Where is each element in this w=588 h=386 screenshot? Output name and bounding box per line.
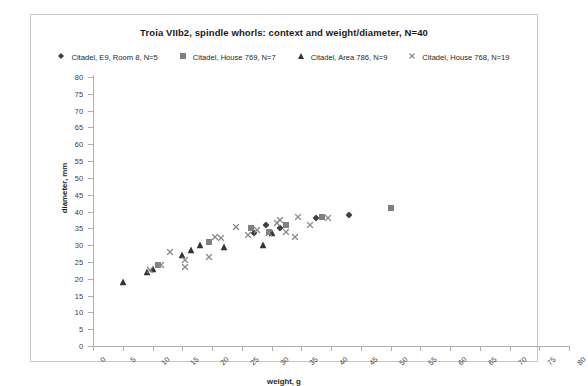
data-point-s2-0	[119, 279, 126, 286]
x-tick	[331, 346, 332, 351]
data-point-s1-4	[283, 222, 289, 228]
triangle-marker-icon	[298, 53, 307, 62]
data-point-s2-5	[197, 242, 204, 249]
legend-label: Citadel, House 769, N=7	[193, 53, 276, 62]
x-tick-label: 50	[397, 355, 409, 367]
data-point-s3-2	[167, 248, 174, 255]
chart-legend: Citadel, E9, Room 8, N=5Citadel, House 7…	[31, 53, 537, 62]
x-tick-label: 0	[98, 355, 107, 364]
x-tick-label: 40	[337, 355, 349, 367]
x-tick-label: 20	[218, 355, 230, 367]
x-tick	[569, 346, 570, 351]
x-tick-label: 70	[516, 355, 528, 367]
y-tick-label: 45	[75, 190, 83, 199]
x-tick	[301, 346, 302, 351]
legend-item-2[interactable]: Citadel, Area 786, N=9	[298, 53, 388, 62]
chart-title: Troia VIIb2, spindle whorls: context and…	[31, 27, 537, 38]
legend-item-1[interactable]: Citadel, House 769, N=7	[180, 53, 276, 62]
data-point-s3-14	[283, 228, 290, 235]
x-tick	[420, 346, 421, 351]
legend-item-0[interactable]: Citadel, E9, Room 8, N=5	[58, 53, 157, 62]
legend-label: Citadel, House 768, N=19	[422, 53, 509, 62]
x-tick-label: 15	[189, 355, 201, 367]
y-tick-label: 50	[75, 173, 83, 182]
data-point-s0-4	[345, 211, 352, 218]
x-tick	[480, 346, 481, 351]
chart-frame: Troia VIIb2, spindle whorls: context and…	[30, 14, 538, 362]
y-tick-label: 55	[75, 157, 83, 166]
x-tick	[391, 346, 392, 351]
x-tick	[93, 346, 94, 351]
data-point-s3-8	[232, 223, 239, 230]
x-tick-label: 60	[456, 355, 468, 367]
y-tick-label: 20	[75, 274, 83, 283]
data-point-s1-6	[388, 205, 394, 211]
data-point-s3-15	[292, 233, 299, 240]
x-tick-label: 30	[278, 355, 290, 367]
x-tick-label: 80	[575, 355, 587, 367]
diamond-marker-icon	[58, 53, 67, 62]
data-point-s2-7	[259, 242, 266, 249]
data-point-s0-1	[262, 221, 269, 228]
data-point-s3-18	[325, 215, 332, 222]
data-point-s2-6	[220, 243, 227, 250]
y-tick-label: 35	[75, 224, 83, 233]
x-tick	[212, 346, 213, 351]
data-point-s2-4	[188, 247, 195, 254]
x-tick	[182, 346, 183, 351]
y-tick-label: 30	[75, 241, 83, 250]
data-point-s3-13	[277, 216, 284, 223]
x-tick-label: 55	[427, 355, 439, 367]
data-point-s3-9	[244, 232, 251, 239]
data-point-s3-5	[206, 253, 213, 260]
x-tick-label: 45	[367, 355, 379, 367]
legend-item-3[interactable]: Citadel, House 768, N=19	[409, 53, 509, 62]
legend-label: Citadel, Area 786, N=9	[311, 53, 388, 62]
x-tick-label: 35	[308, 355, 320, 367]
data-point-s3-7	[217, 235, 224, 242]
x-tick	[123, 346, 124, 351]
y-tick-label: 15	[75, 291, 83, 300]
y-tick-label: 40	[75, 207, 83, 216]
cross-marker-icon	[409, 53, 418, 62]
data-point-s3-4	[182, 263, 189, 270]
x-tick-label: 75	[546, 355, 558, 367]
x-tick	[242, 346, 243, 351]
data-point-s3-10	[253, 226, 260, 233]
x-tick	[510, 346, 511, 351]
plot-area	[93, 77, 569, 346]
data-point-s3-11	[265, 230, 272, 237]
y-tick-label: 80	[75, 73, 83, 82]
legend-label: Citadel, E9, Room 8, N=5	[71, 53, 157, 62]
x-tick	[153, 346, 154, 351]
x-tick	[272, 346, 273, 351]
y-tick-label: 25	[75, 257, 83, 266]
y-tick-label: 0	[79, 342, 83, 351]
y-tick-label: 10	[75, 308, 83, 317]
data-point-s3-16	[295, 213, 302, 220]
square-marker-icon	[180, 53, 189, 62]
data-point-s3-0	[146, 267, 153, 274]
x-tick-label: 65	[486, 355, 498, 367]
y-tick-label: 5	[79, 325, 83, 334]
x-tick	[361, 346, 362, 351]
x-axis-title: weight, g	[31, 377, 537, 386]
x-tick-label: 25	[248, 355, 260, 367]
x-tick-label: 10	[159, 355, 171, 367]
data-point-s3-17	[307, 221, 314, 228]
data-point-s3-1	[158, 262, 165, 269]
x-tick-label: 5	[128, 355, 137, 364]
y-tick-label: 60	[75, 140, 83, 149]
y-tick-label: 75	[75, 89, 83, 98]
y-tick-label: 65	[75, 123, 83, 132]
x-tick	[539, 346, 540, 351]
y-axis-title: diameter, mm	[60, 163, 69, 213]
y-tick-label: 70	[75, 106, 83, 115]
x-tick	[450, 346, 451, 351]
